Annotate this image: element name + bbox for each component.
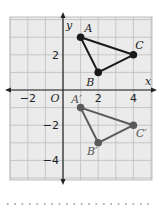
vertex-label: A′	[70, 93, 82, 106]
x-tick-label: −2	[20, 92, 36, 105]
origin-label: O	[50, 92, 59, 105]
vertex-label: B	[85, 76, 94, 89]
x-axis-right-arrow-icon	[151, 88, 157, 93]
y-axis-down-arrow-icon	[61, 179, 66, 185]
y-tick-label: −2	[43, 119, 59, 132]
y-tick-label: 2	[52, 49, 59, 62]
vertex-label: A	[84, 22, 93, 35]
x-tick-label: 4	[130, 92, 137, 105]
y-axis-label: y	[65, 19, 73, 32]
vertex-label: B′	[86, 145, 98, 158]
x-axis-left-arrow-icon	[5, 88, 11, 93]
vertex-point	[94, 69, 102, 77]
vertex-point	[77, 33, 85, 41]
y-tick-label: −4	[43, 154, 59, 167]
vertex-point	[130, 51, 138, 59]
coordinate-plane: −2242−2−4OxyABCA′B′C′	[0, 0, 159, 221]
vertex-label: C′	[136, 127, 147, 140]
x-tick-label: 2	[95, 92, 102, 105]
x-axis-label: x	[145, 75, 152, 88]
y-axis-up-arrow-icon	[61, 12, 66, 18]
dotted-separator	[4, 203, 154, 205]
vertex-label: C	[135, 39, 144, 52]
